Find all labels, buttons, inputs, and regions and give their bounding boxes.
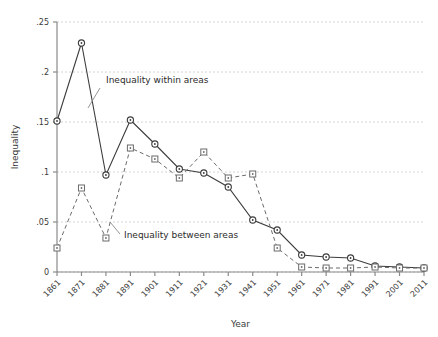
- data-point-center: [252, 219, 254, 221]
- data-point-center: [81, 187, 83, 189]
- y-axis-title: Inequality: [10, 124, 20, 169]
- data-point-center: [105, 237, 107, 239]
- data-point-center: [325, 267, 327, 269]
- data-point-center: [301, 266, 303, 268]
- data-point-center: [178, 168, 180, 170]
- x-tick-label-5: 1911: [164, 278, 185, 299]
- data-point-center: [276, 247, 278, 249]
- x-tick-label-13: 1991: [360, 278, 381, 299]
- leader-line-between-areas: [110, 222, 120, 234]
- x-tick-label-15: 2011: [409, 278, 430, 299]
- x-tick-label-0: 1861: [42, 278, 63, 299]
- x-tick-label-12: 1981: [335, 278, 356, 299]
- x-tick-labels: 1861187118811891190119111921193119411951…: [42, 278, 430, 299]
- annotation-between-areas: Inequality between areas: [124, 230, 238, 240]
- data-point-center: [227, 177, 229, 179]
- x-tick-label-8: 1941: [237, 278, 258, 299]
- x-tick-label-4: 1901: [140, 278, 161, 299]
- y-tick-label-1: .05: [36, 218, 49, 227]
- data-point-center: [350, 267, 352, 269]
- annotation-within-areas: Inequality within areas: [106, 75, 209, 85]
- data-point-center: [130, 119, 132, 121]
- axes-group: [57, 22, 424, 272]
- y-tick-label-3: .15: [36, 118, 49, 127]
- chart-canvas: 0.05.1.15.2.25 1861187118811891190119111…: [0, 0, 438, 337]
- x-axis-title: Year: [230, 319, 250, 329]
- data-point-center: [154, 143, 156, 145]
- x-tick-label-3: 1891: [115, 278, 136, 299]
- data-point-center: [252, 173, 254, 175]
- data-point-center: [154, 158, 156, 160]
- x-tick-label-9: 1951: [262, 278, 283, 299]
- data-point-center: [374, 266, 376, 268]
- data-point-center: [301, 254, 303, 256]
- data-point-center: [399, 267, 401, 269]
- y-tick-label-2: .1: [41, 168, 49, 177]
- series-line-1: [57, 148, 424, 268]
- data-point-center: [350, 257, 352, 259]
- x-tick-label-1: 1871: [66, 278, 87, 299]
- data-point-center: [130, 147, 132, 149]
- inequality-trend-chart: 0.05.1.15.2.25 1861187118811891190119111…: [0, 0, 438, 337]
- data-point-center: [203, 151, 205, 153]
- x-tick-label-2: 1881: [91, 278, 112, 299]
- data-point-center: [423, 267, 425, 269]
- data-point-center: [105, 174, 107, 176]
- y-tick-label-4: .2: [41, 68, 49, 77]
- x-tick-label-10: 1961: [286, 278, 307, 299]
- data-point-center: [203, 172, 205, 174]
- y-tick-labels: 0.05.1.15.2.25: [36, 18, 49, 277]
- data-point-center: [276, 229, 278, 231]
- y-tick-label-0: 0: [44, 268, 49, 277]
- x-tick-label-14: 2001: [384, 278, 405, 299]
- data-point-center: [178, 177, 180, 179]
- data-point-center: [56, 120, 58, 122]
- y-tick-label-5: .25: [36, 18, 49, 27]
- series-between-areas: [54, 145, 427, 271]
- data-point-center: [81, 42, 83, 44]
- x-tick-label-7: 1931: [213, 278, 234, 299]
- x-tick-label-6: 1921: [188, 278, 209, 299]
- gridlines-group: [57, 22, 424, 272]
- leader-line-within-areas: [88, 88, 100, 108]
- data-point-center: [325, 256, 327, 258]
- data-point-center: [227, 186, 229, 188]
- x-tick-label-11: 1971: [311, 278, 332, 299]
- data-point-center: [56, 247, 58, 249]
